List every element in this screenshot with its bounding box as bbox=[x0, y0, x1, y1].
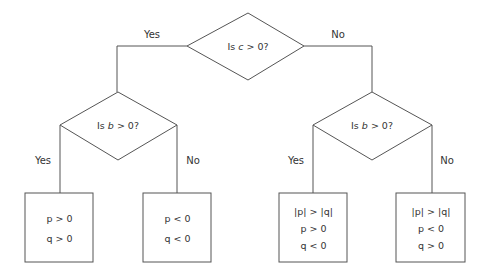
right-decision-text: Is b > 0? bbox=[351, 120, 393, 131]
outcome-box-1: p > 0 q > 0 bbox=[25, 193, 94, 263]
root-yes-connector bbox=[117, 46, 187, 92]
right-suffix: > 0? bbox=[371, 120, 393, 131]
right-no-label: No bbox=[440, 155, 454, 166]
outcome-line: |p| > |q| bbox=[294, 206, 333, 217]
root-suffix: > 0? bbox=[246, 41, 268, 52]
outcome-box-2: p < 0 q < 0 bbox=[143, 193, 212, 263]
root-decision-text: Is c > 0? bbox=[227, 41, 268, 52]
left-yes-label: Yes bbox=[35, 155, 51, 166]
root-no-connector bbox=[304, 46, 372, 92]
right-yes-label: Yes bbox=[288, 155, 304, 166]
outcome-line: q < 0 bbox=[300, 240, 326, 251]
root-var: c bbox=[238, 41, 243, 52]
left-decision-text: Is b > 0? bbox=[97, 120, 139, 131]
outcome-line: p > 0 bbox=[300, 223, 326, 234]
outcome-box-4: |p| > |q| p < 0 q > 0 bbox=[396, 193, 466, 263]
right-var: b bbox=[362, 120, 368, 131]
outcome-line: q > 0 bbox=[418, 240, 444, 251]
left-var: b bbox=[108, 120, 114, 131]
right-prefix: Is bbox=[351, 120, 359, 131]
root-no-label: No bbox=[331, 29, 345, 40]
outcome-line: p > 0 bbox=[46, 213, 72, 224]
outcome-line: q < 0 bbox=[164, 233, 190, 244]
outcome-line: p < 0 bbox=[164, 213, 190, 224]
outcome-box-3: |p| > |q| p > 0 q < 0 bbox=[279, 193, 348, 263]
left-prefix: Is bbox=[97, 120, 105, 131]
left-no-label: No bbox=[186, 155, 200, 166]
left-suffix: > 0? bbox=[117, 120, 139, 131]
root-yes-label: Yes bbox=[144, 29, 160, 40]
outcome-line: q > 0 bbox=[46, 233, 72, 244]
root-prefix: Is bbox=[227, 41, 235, 52]
outcome-line: |p| > |q| bbox=[412, 206, 451, 217]
outcome-line: p < 0 bbox=[418, 223, 444, 234]
